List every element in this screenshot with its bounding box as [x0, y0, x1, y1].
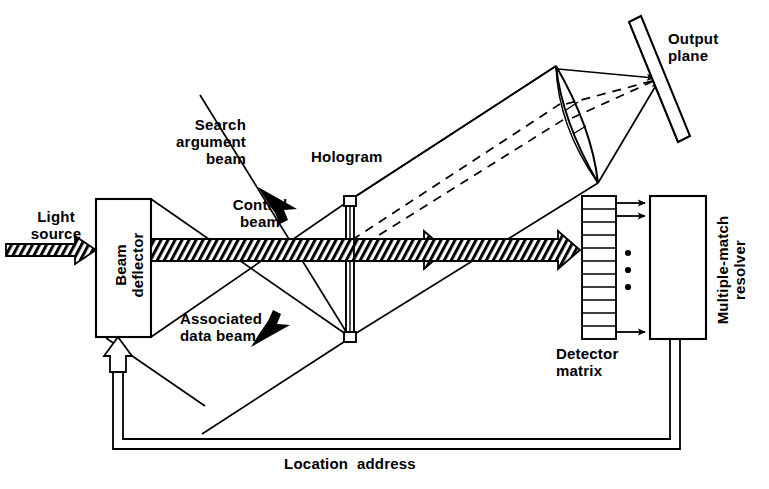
label-location-address: Location address — [240, 455, 460, 472]
label-light-source: Light source — [10, 208, 102, 242]
control-beam-right — [354, 231, 580, 269]
label-control-beam: Control beam — [208, 196, 312, 230]
label-hologram: Hologram — [311, 148, 421, 165]
feedback-arrow-head — [104, 337, 132, 372]
label-output-plane: Output plane — [668, 30, 768, 64]
hologram-bottom-diagonal — [202, 338, 350, 434]
hologram-to-lens-upper-ray — [350, 66, 556, 200]
hologram-to-lens-lower-ray — [350, 66, 598, 337]
label-multiple-match-resolver: Multiple-match resolver — [714, 185, 748, 355]
detector-output-arrows — [616, 203, 645, 332]
detector-matrix-cells — [582, 196, 616, 339]
lens-element — [556, 66, 598, 183]
diagram-figure: Light source Beam deflector Search argum… — [0, 0, 769, 489]
label-beam-deflector: Beam deflector — [112, 200, 146, 330]
hologram-plate — [344, 196, 356, 342]
label-detector-matrix: Detector matrix — [556, 345, 666, 379]
lower-left-diagonal — [106, 338, 350, 406]
multiple-match-resolver-box — [650, 196, 706, 339]
label-associated-data-beam: Associated data beam — [180, 310, 330, 344]
ellipsis-dots — [625, 250, 631, 290]
label-search-argument-beam: Search argument beam — [120, 116, 246, 167]
